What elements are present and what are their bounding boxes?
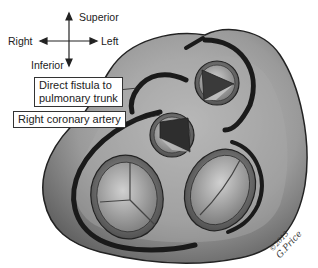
inferior-label: Inferior (31, 60, 64, 71)
fistula-callout: Direct fistula to pulmonary trunk (34, 77, 123, 107)
superior-label: Superior (79, 12, 119, 23)
aortic-valve (150, 113, 194, 157)
fistula-label-line1: Direct fistula to (39, 79, 118, 92)
heart-illustration (0, 0, 318, 268)
rca-label: Right coronary artery (18, 113, 121, 125)
pulmonary-valve (195, 61, 239, 105)
fistula-label-line2: pulmonary trunk (39, 92, 118, 105)
rca-callout: Right coronary artery (13, 111, 126, 128)
right-label: Right (8, 36, 33, 47)
heart-base-diagram: Superior Inferior Right Left Direct fist… (0, 0, 318, 268)
left-label: Left (101, 36, 119, 47)
